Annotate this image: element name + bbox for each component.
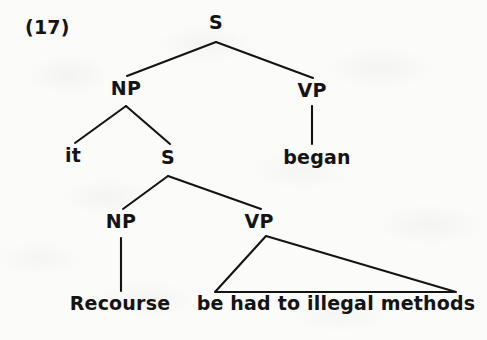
branch-embedded-s-to-np [123,176,168,209]
node-subject-np: NP [111,79,141,98]
node-embedded-s: S [161,148,175,167]
node-matrix-vp: VP [297,81,326,100]
branch-root-s-to-np [127,42,216,76]
branch-np-to-it [75,106,126,143]
branch-np-to-embedded-s [126,106,170,144]
example-number: (17) [25,18,70,37]
node-embedded-vp: VP [244,212,273,231]
syntax-tree-lines [0,0,487,340]
leaf-matrix-verb-began: began [283,148,350,167]
node-root-s: S [209,13,223,32]
leaf-embedded-predicate: be had to illegal methods [197,294,476,313]
node-embedded-np: NP [106,212,136,231]
branch-root-s-to-vp [216,42,313,78]
leaf-expletive-it: it [65,146,81,165]
branch-embedded-s-to-vp [168,176,261,209]
vp-constituent-triangle [215,236,456,292]
leaf-embedded-subject-recourse: Recourse [70,294,171,313]
figure-canvas: (17) S NP VP S NP VP it began Recourse b… [0,0,487,340]
